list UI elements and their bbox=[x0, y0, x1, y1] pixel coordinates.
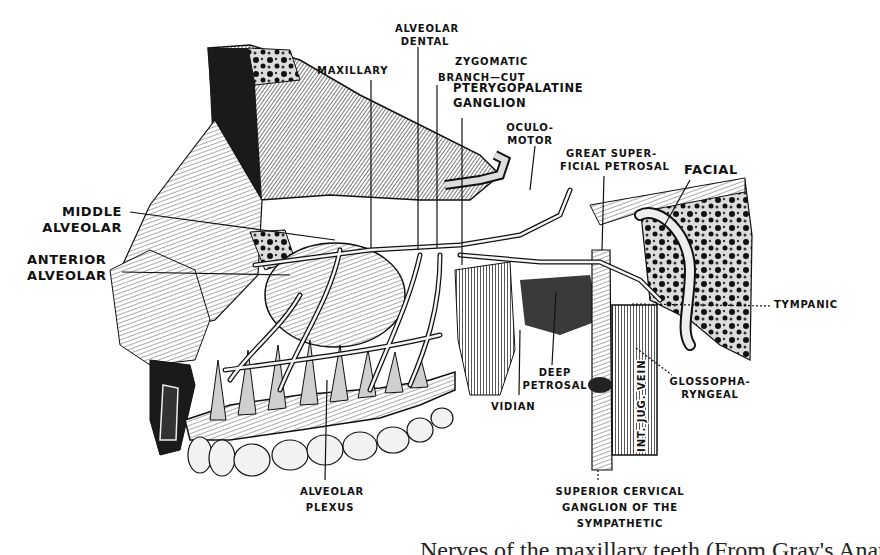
label-line: DEEP bbox=[520, 366, 590, 379]
label-line: GREAT SUPER- bbox=[560, 147, 670, 160]
label-zygomatic: ZYGOMATIC bbox=[455, 55, 528, 68]
label-vidian: VIDIAN bbox=[491, 400, 535, 413]
label-line: ALVEOLAR bbox=[40, 220, 122, 236]
label-line: GLOSSOPHA- bbox=[665, 375, 755, 388]
label-line: OCULO- bbox=[500, 121, 560, 134]
label-alveolar-plexus: ALVEOLAR PLEXUS bbox=[300, 484, 360, 516]
label-oculomotor: OCULO- MOTOR bbox=[500, 121, 560, 147]
label-maxillary: MAXILLARY bbox=[317, 64, 388, 77]
label-line: PETROSAL bbox=[520, 379, 590, 392]
label-line: PTERYGOPALATINE bbox=[453, 81, 583, 96]
label-great-superficial-petrosal: GREAT SUPER- FICIAL PETROSAL bbox=[560, 147, 670, 173]
label-pterygopalatine-ganglion: PTERYGOPALATINE GANGLION bbox=[453, 81, 583, 111]
label-line: GANGLION bbox=[453, 96, 583, 111]
label-line: ANTERIOR bbox=[27, 252, 107, 268]
label-line: SYMPATHETIC bbox=[550, 516, 690, 532]
label-line: DENTAL bbox=[395, 35, 455, 48]
label-line: RYNGEAL bbox=[665, 388, 755, 401]
label-anterior-alveolar: ANTERIOR ALVEOLAR bbox=[27, 252, 107, 284]
label-line: SUPERIOR CERVICAL bbox=[550, 484, 690, 500]
maxillary-teeth bbox=[185, 340, 455, 476]
label-deep-petrosal: DEEP PETROSAL bbox=[520, 366, 590, 392]
label-glossopharyngeal: GLOSSOPHA- RYNGEAL bbox=[665, 375, 755, 401]
label-line: FICIAL PETROSAL bbox=[560, 160, 670, 173]
figure-caption: Nerves of the maxillary teeth (From Gray… bbox=[420, 536, 880, 555]
label-line: MIDDLE bbox=[40, 204, 122, 220]
label-line: PLEXUS bbox=[300, 500, 360, 516]
label-superior-cervical-ganglion: SUPERIOR CERVICAL GANGLION OF THE SYMPAT… bbox=[550, 484, 690, 532]
label-line: MOTOR bbox=[500, 134, 560, 147]
label-tympanic: TYMPANIC bbox=[774, 298, 838, 311]
label-line: ALVEOLAR bbox=[27, 268, 107, 284]
skull-bones bbox=[110, 45, 752, 470]
label-alveolar-dental: ALVEOLAR DENTAL bbox=[395, 22, 455, 48]
label-middle-alveolar: MIDDLE ALVEOLAR bbox=[40, 204, 122, 236]
label-facial: FACIAL bbox=[684, 162, 738, 178]
svg-text:INT. JUG. VEIN: INT. JUG. VEIN bbox=[636, 359, 647, 452]
label-line: GANGLION OF THE bbox=[550, 500, 690, 516]
label-line: ALVEOLAR bbox=[300, 484, 360, 500]
label-line: ALVEOLAR bbox=[395, 22, 455, 35]
